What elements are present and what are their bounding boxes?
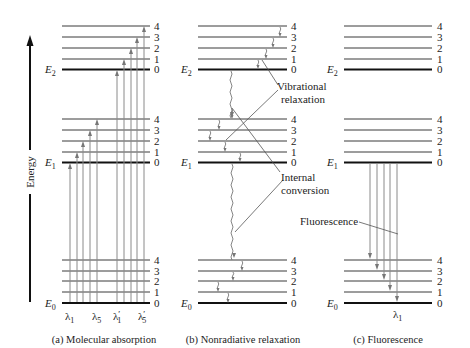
panel-b-state-labels: E2 E1 E0 <box>180 63 192 312</box>
svg-text:E2: E2 <box>180 63 192 78</box>
svg-text:0: 0 <box>437 297 443 309</box>
panel-a-molecular-absorption: 4 3 2 1 0 4 3 2 1 0 4 3 2 1 0 E2 E1 E0 λ… <box>44 20 160 346</box>
panel-b-annotations: Vibrational relaxation Internal conversi… <box>277 80 330 196</box>
absorption-arrows-e2 <box>115 26 146 302</box>
svg-text:0: 0 <box>437 156 443 168</box>
panel-b-level-numbers: 4 3 2 1 0 4 3 2 1 0 4 3 2 1 0 <box>291 20 297 309</box>
svg-text:λ5: λ5 <box>92 310 101 325</box>
svg-text:λ′5: λ′5 <box>138 309 146 325</box>
svg-text:λ′1: λ′1 <box>113 309 121 325</box>
vibrational-relaxation-label: Vibrational <box>277 80 326 92</box>
svg-text:0: 0 <box>154 156 160 168</box>
svg-text:0: 0 <box>154 63 160 75</box>
absorption-arrows-e1 <box>68 119 99 302</box>
svg-text:0: 0 <box>291 156 297 168</box>
svg-text:0: 0 <box>291 297 297 309</box>
svg-text:relaxation: relaxation <box>281 93 325 105</box>
annotation-leader-lines <box>226 60 283 232</box>
panel-a-wavelength-labels: λ1 λ5 λ′1 λ′5 <box>65 309 146 325</box>
svg-text:E0: E0 <box>180 297 192 312</box>
energy-axis-label: Energy <box>24 156 36 188</box>
panel-b-caption: (b) Nonradiative relaxation <box>186 334 301 346</box>
svg-text:E1: E1 <box>326 156 338 171</box>
fluorescence-leader-line <box>359 222 398 234</box>
panel-b-nonradiative-relaxation: 4 3 2 1 0 4 3 2 1 0 4 3 2 1 0 E2 E1 E0 V… <box>180 20 330 346</box>
panel-c-caption: (c) Fluorescence <box>353 334 423 346</box>
panel-a-level-numbers: 4 3 2 1 0 4 3 2 1 0 4 3 2 1 0 <box>154 20 160 309</box>
panel-a-state-labels: E2 E1 E0 <box>44 63 56 312</box>
internal-conversion-label: Internal <box>281 171 315 183</box>
svg-text:E1: E1 <box>180 156 192 171</box>
panel-c-wavelength-label: λ1 <box>393 308 402 323</box>
axis-arrow-icon <box>27 35 34 46</box>
energy-level-diagram: Energy <box>0 0 470 348</box>
svg-text:conversion: conversion <box>281 184 330 196</box>
svg-text:0: 0 <box>437 63 443 75</box>
svg-text:λ1: λ1 <box>65 310 74 325</box>
svg-text:0: 0 <box>291 63 297 75</box>
svg-text:0: 0 <box>154 297 160 309</box>
svg-text:E0: E0 <box>44 297 56 312</box>
panel-c-fluorescence: Fluorescence 4 3 2 1 0 4 3 2 1 0 4 3 2 1… <box>300 20 443 346</box>
svg-text:E1: E1 <box>44 156 56 171</box>
svg-text:E0: E0 <box>326 297 338 312</box>
energy-axis: Energy <box>24 35 36 302</box>
panel-c-level-numbers: 4 3 2 1 0 4 3 2 1 0 4 3 2 1 0 <box>437 20 443 309</box>
svg-text:E2: E2 <box>44 63 56 78</box>
svg-text:E2: E2 <box>326 63 338 78</box>
panel-a-caption: (a) Molecular absorption <box>52 334 157 346</box>
fluorescence-label: Fluorescence <box>300 215 358 227</box>
